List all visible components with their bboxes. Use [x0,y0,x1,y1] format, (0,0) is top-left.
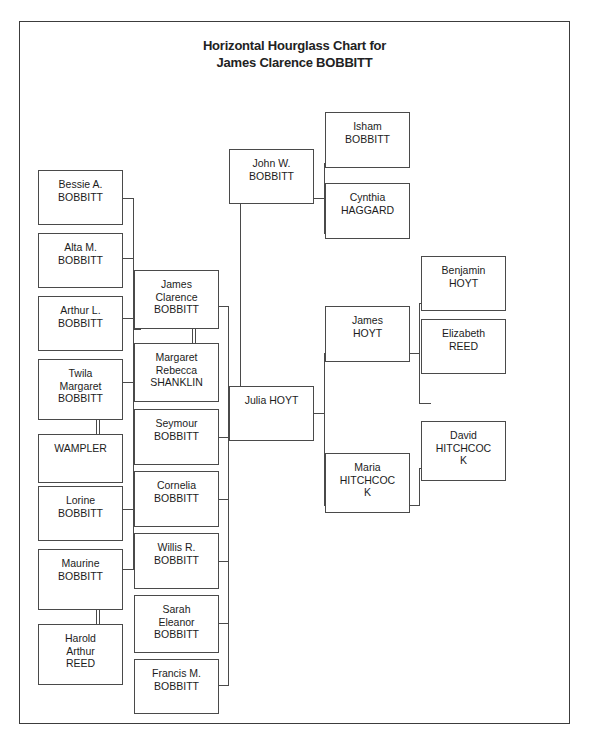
person-box-alta-m-bobbitt[interactable]: Alta M.BOBBITT [38,233,123,288]
person-box-wampler[interactable]: WAMPLER [38,434,123,483]
person-box-cornelia-bobbitt[interactable]: CorneliaBOBBITT [134,471,219,527]
connector-spine-to-parents [133,329,141,330]
person-box-maurine-bobbitt[interactable]: MaurineBOBBITT [38,549,123,610]
person-name: CynthiaHAGGARD [326,191,409,216]
person-box-sarah-eleanor-bobbitt[interactable]: SarahEleanorBOBBITT [134,595,219,653]
person-box-bessie-a-bobbitt[interactable]: Bessie A.BOBBITT [38,170,123,225]
person-name: SeymourBOBBITT [135,417,218,442]
person-box-isham-bobbitt[interactable]: IshamBOBBITT [325,112,410,168]
person-name: IshamBOBBITT [326,120,409,145]
person-box-harold-arthur-reed[interactable]: HaroldArthurREED [38,624,123,685]
person-name: MariaHITCHCOCK [326,461,409,499]
person-name: JamesHOYT [326,314,409,339]
person-name: ElizabethREED [422,327,505,352]
person-name: Willis R.BOBBITT [135,541,218,566]
person-name: TwilaMargaretBOBBITT [39,367,122,405]
person-box-margaret-rebecca-shanklin[interactable]: MargaretRebeccaSHANKLIN [134,343,219,402]
connector-maria-parents-spine [419,468,420,506]
marriage-link-james-margaret [192,329,196,343]
person-box-willis-r-bobbitt[interactable]: Willis R.BOBBITT [134,533,219,589]
title-line-1: Horizontal Hourglass Chart for [20,37,569,54]
connector-to-elizabeth [419,403,431,404]
connector-children-spine [228,306,229,686]
person-name: SarahEleanorBOBBITT [135,603,218,641]
person-name: Bessie A.BOBBITT [39,178,122,203]
person-name: LorineBOBBITT [39,494,122,519]
page-title: Horizontal Hourglass Chart for James Cla… [20,37,569,71]
person-box-twila-margaret-bobbitt[interactable]: TwilaMargaretBOBBITT [38,359,123,420]
person-box-arthur-l-bobbitt[interactable]: Arthur L.BOBBITT [38,296,123,351]
person-box-seymour-bobbitt[interactable]: SeymourBOBBITT [134,409,219,465]
person-name: MargaretRebeccaSHANKLIN [135,351,218,389]
person-name: Julia HOYT [230,394,313,407]
person-box-maria-hitchcock[interactable]: MariaHITCHCOCK [325,453,410,513]
person-box-james-clarence-bobbitt[interactable]: JamesClarenceBOBBITT [134,270,219,329]
person-name: CorneliaBOBBITT [135,479,218,504]
person-box-david-hitchcock[interactable]: DavidHITCHCOCK [421,421,506,481]
person-box-benjamin-hoyt[interactable]: BenjaminHOYT [421,256,506,311]
person-box-julia-hoyt[interactable]: Julia HOYT [229,386,314,441]
person-name: DavidHITCHCOCK [422,429,505,467]
person-name: Francis M.BOBBITT [135,667,218,692]
marriage-link-maurine-harold [96,610,100,624]
marriage-link-twila-wampler [96,420,100,434]
person-name: BenjaminHOYT [422,264,505,289]
person-name: Arthur L.BOBBITT [39,304,122,329]
person-name: HaroldArthurREED [39,632,122,670]
chart-canvas: Horizontal Hourglass Chart for James Cla… [0,0,589,739]
person-name: John W.BOBBITT [230,157,313,182]
connector-couple-spine [240,198,241,414]
person-box-elizabeth-reed[interactable]: ElizabethREED [421,319,506,374]
connector-james-hoyt-parents-spine [419,303,420,404]
person-box-cynthia-haggard[interactable]: CynthiaHAGGARD [325,183,410,239]
person-name: MaurineBOBBITT [39,557,122,582]
person-box-john-w-bobbitt[interactable]: John W.BOBBITT [229,149,314,204]
person-box-lorine-bobbitt[interactable]: LorineBOBBITT [38,486,123,541]
person-box-james-hoyt[interactable]: JamesHOYT [325,306,410,362]
title-line-2: James Clarence BOBBITT [20,54,569,71]
person-name: WAMPLER [39,442,122,455]
chart-frame: Horizontal Hourglass Chart for James Cla… [19,21,570,724]
person-name: Alta M.BOBBITT [39,241,122,266]
person-name: JamesClarenceBOBBITT [135,278,218,316]
person-box-francis-m-bobbitt[interactable]: Francis M.BOBBITT [134,659,219,714]
